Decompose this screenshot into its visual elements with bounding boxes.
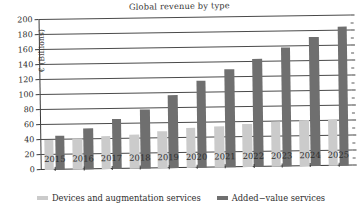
y-axis-tick-label: 140 xyxy=(18,61,33,69)
bar-2023-series-2 xyxy=(281,47,292,166)
gridline xyxy=(39,14,351,20)
y-axis-tick-right xyxy=(351,29,355,30)
bar-2015-series-2 xyxy=(55,135,65,170)
x-axis-tick xyxy=(168,165,169,169)
x-axis-tick xyxy=(282,163,283,167)
x-axis-tick xyxy=(55,167,56,171)
y-axis-tick xyxy=(35,34,39,35)
x-axis-label-2018: 2018 xyxy=(126,153,154,162)
bar-2019-series-1 xyxy=(158,131,168,169)
gridline xyxy=(39,44,351,50)
chart-legend: Devices and augmentation servicesAdded−v… xyxy=(0,193,362,203)
legend-swatch-icon xyxy=(37,196,48,200)
y-axis-tick-label: 20 xyxy=(24,151,34,159)
x-axis-label-2025: 2025 xyxy=(324,150,352,159)
y-axis-tick-label: 80 xyxy=(24,106,34,114)
legend-label: Added−value services xyxy=(232,193,325,203)
x-axis-tick xyxy=(112,166,113,170)
x-axis-label-2019: 2019 xyxy=(154,153,182,162)
y-axis-minor-tick xyxy=(351,22,354,23)
y-axis-tick xyxy=(35,19,39,20)
x-axis-tick xyxy=(140,166,141,170)
y-axis-tick-label: 100 xyxy=(18,91,33,99)
y-axis-tick xyxy=(35,49,39,50)
chart-container: Global revenue by type € (Billions) 0204… xyxy=(0,0,362,214)
y-axis-title: € (Billions) xyxy=(37,29,47,72)
y-axis-minor-tick xyxy=(353,157,356,158)
plot-area: € (Billions) 020406080100120140160180200 xyxy=(39,15,353,170)
x-axis-label-2024: 2024 xyxy=(296,151,324,160)
x-axis-label-2023: 2023 xyxy=(267,151,295,160)
legend-entry-1[interactable]: Devices and augmentation services xyxy=(37,193,201,203)
y-axis-minor-tick xyxy=(351,82,354,83)
y-axis-tick-label: 200 xyxy=(17,16,32,24)
y-axis-tick xyxy=(35,64,39,65)
x-axis-label-2016: 2016 xyxy=(69,154,97,163)
bar-2024-series-2 xyxy=(309,37,320,166)
y-axis-tick-label: 0 xyxy=(30,166,35,174)
y-axis-tick-right xyxy=(351,59,355,60)
y-axis-tick xyxy=(36,139,40,140)
gridline xyxy=(39,74,351,80)
x-axis-tick xyxy=(253,164,254,168)
y-axis-tick-right xyxy=(351,74,355,75)
y-axis-tick xyxy=(35,79,39,80)
y-axis-tick-right xyxy=(352,119,356,120)
x-axis-label-2015: 2015 xyxy=(41,155,69,164)
y-axis-tick-right xyxy=(352,149,356,150)
legend-entry-2[interactable]: Added−value services xyxy=(217,193,325,203)
bar-2018-series-1 xyxy=(129,134,139,169)
y-axis-minor-tick xyxy=(352,127,355,128)
legend-label: Devices and augmentation services xyxy=(52,193,201,203)
y-axis-tick xyxy=(37,169,41,170)
x-axis-label-2017: 2017 xyxy=(97,154,125,163)
y-axis-minor-tick xyxy=(352,112,355,113)
x-axis-tick xyxy=(225,164,226,168)
chart-title: Global revenue by type xyxy=(0,0,360,14)
y-axis-tick-right xyxy=(353,164,357,165)
y-axis-tick-right xyxy=(352,89,356,90)
x-axis-tick xyxy=(83,166,84,170)
y-axis-minor-tick xyxy=(351,37,354,38)
gridline xyxy=(39,59,351,65)
y-axis-tick-label: 120 xyxy=(18,76,33,84)
bar-2025-series-2 xyxy=(337,26,349,166)
y-axis-tick-label: 60 xyxy=(24,121,34,129)
y-axis-minor-tick xyxy=(352,97,355,98)
x-axis-tick xyxy=(310,163,311,167)
y-axis-tick xyxy=(36,124,40,125)
y-axis-minor-tick xyxy=(352,142,355,143)
legend-swatch-icon xyxy=(217,196,228,200)
x-axis-label-2021: 2021 xyxy=(211,152,239,161)
y-axis-tick xyxy=(36,94,40,95)
y-axis-minor-tick xyxy=(351,67,354,68)
x-axis-tick xyxy=(197,165,198,169)
y-axis-tick-label: 180 xyxy=(17,31,32,39)
y-axis-tick-right xyxy=(350,14,354,15)
y-axis-tick-label: 40 xyxy=(24,136,34,144)
chart-tilt-wrapper: Global revenue by type € (Billions) 0204… xyxy=(0,0,362,214)
y-axis-tick-right xyxy=(351,44,355,45)
y-axis-tick-right xyxy=(352,134,356,135)
x-axis-label-2020: 2020 xyxy=(182,153,210,162)
y-axis-minor-tick xyxy=(351,52,354,53)
x-axis-tick xyxy=(338,163,339,167)
y-axis-tick-label: 160 xyxy=(18,46,33,54)
y-axis-tick xyxy=(36,109,40,110)
x-axis-label-2022: 2022 xyxy=(239,152,267,161)
y-axis-tick-right xyxy=(352,104,356,105)
gridline xyxy=(39,29,351,35)
